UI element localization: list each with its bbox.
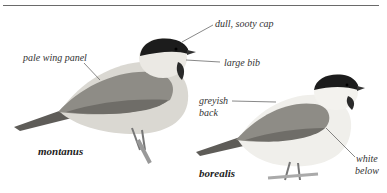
label-below: below [355, 165, 379, 176]
field-guide-plate: pale wing panel dull, sooty cap large bi… [0, 0, 387, 193]
label-dull-sooty-cap: dull, sooty cap [215, 18, 274, 29]
borealis-bird [196, 74, 365, 180]
label-pale-wing-panel: pale wing panel [23, 52, 87, 63]
subspecies-montanus: montanus [38, 145, 83, 157]
label-greyish: greyish [199, 95, 228, 106]
label-large-bib: large bib [224, 57, 260, 68]
label-white: white [356, 153, 378, 164]
bird-illustrations [0, 0, 387, 193]
label-back: back [199, 107, 218, 118]
subspecies-borealis: borealis [199, 167, 235, 179]
